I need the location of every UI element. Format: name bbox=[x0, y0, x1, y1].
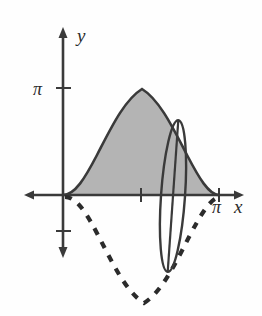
x-tick-pi-label: π bbox=[212, 197, 222, 217]
x-axis-label: x bbox=[233, 196, 243, 217]
sine-curve-figure: y x π π bbox=[0, 0, 262, 316]
figure-container: y x π π bbox=[0, 0, 262, 316]
y-axis-label: y bbox=[75, 25, 86, 46]
y-tick-pi-label: π bbox=[33, 79, 43, 99]
